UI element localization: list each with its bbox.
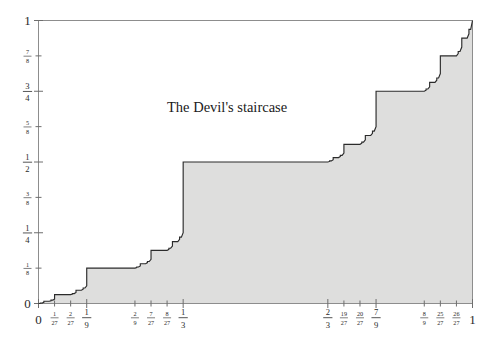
svg-text:9: 9	[423, 319, 426, 326]
y-tick-label-5: 58	[24, 119, 32, 135]
y-tick-label-3: 38	[24, 190, 32, 206]
x-tick-label-7: 13	[179, 307, 188, 329]
x-tick-label-5: 727	[147, 310, 155, 326]
svg-text:2: 2	[326, 307, 330, 317]
x-tick-label-3: 19	[82, 307, 91, 329]
y-tick-label-0: 0	[24, 296, 31, 311]
svg-text:8: 8	[26, 199, 29, 206]
page-title: The Devil's staircase	[167, 99, 287, 115]
svg-text:27: 27	[51, 319, 57, 326]
svg-text:27: 27	[68, 319, 74, 326]
svg-text:8: 8	[423, 310, 426, 317]
svg-text:1: 1	[85, 307, 89, 317]
svg-text:8: 8	[26, 57, 29, 64]
svg-text:4: 4	[25, 235, 30, 245]
svg-text:19: 19	[341, 310, 347, 317]
svg-text:27: 27	[453, 319, 459, 326]
svg-text:9: 9	[85, 320, 89, 330]
svg-text:3: 3	[181, 320, 185, 330]
svg-text:27: 27	[437, 319, 443, 326]
x-tick-label-2: 227	[67, 310, 75, 326]
svg-text:8: 8	[26, 128, 29, 135]
svg-text:2: 2	[69, 310, 72, 317]
svg-text:8: 8	[26, 269, 29, 276]
svg-text:25: 25	[437, 310, 443, 317]
svg-text:7: 7	[26, 48, 29, 55]
svg-text:7: 7	[149, 310, 152, 317]
y-tick-label-7: 78	[24, 48, 32, 64]
x-tick-label-6: 827	[163, 310, 171, 326]
svg-text:27: 27	[341, 319, 347, 326]
x-tick-label-4: 29	[131, 310, 139, 326]
y-tick-label-6: 34	[23, 81, 32, 103]
x-tick-label-8: 23	[323, 307, 332, 329]
svg-text:27: 27	[357, 319, 363, 326]
x-tick-label-10: 2027	[356, 310, 364, 326]
svg-text:27: 27	[148, 319, 154, 326]
devils-staircase-figure: 0181438125834781012722719297278271323192…	[0, 0, 499, 340]
y-tick-label-2: 14	[23, 223, 32, 245]
svg-text:3: 3	[326, 320, 330, 330]
svg-text:2: 2	[133, 310, 136, 317]
cantor-function-plot: 0181438125834781012722719297278271323192…	[0, 0, 499, 340]
svg-text:1: 1	[25, 223, 29, 233]
svg-text:8: 8	[166, 310, 169, 317]
x-tick-label-14: 2627	[452, 310, 460, 326]
svg-text:1: 1	[53, 310, 56, 317]
svg-text:27: 27	[164, 319, 170, 326]
svg-text:5: 5	[26, 119, 29, 126]
svg-text:2: 2	[25, 164, 29, 174]
svg-text:1: 1	[181, 307, 185, 317]
svg-text:20: 20	[357, 310, 363, 317]
svg-text:9: 9	[374, 320, 378, 330]
svg-text:1: 1	[26, 261, 29, 268]
y-tick-label-8: 1	[24, 13, 31, 28]
x-tick-label-9: 1927	[340, 310, 348, 326]
x-tick-label-13: 2527	[436, 310, 444, 326]
x-tick-label-15: 1	[469, 312, 476, 327]
y-tick-label-4: 12	[23, 152, 32, 174]
svg-text:9: 9	[133, 319, 136, 326]
svg-text:3: 3	[25, 81, 29, 91]
x-tick-label-1: 127	[51, 310, 59, 326]
svg-text:7: 7	[374, 307, 379, 317]
x-tick-label-11: 79	[371, 307, 380, 329]
svg-text:3: 3	[26, 190, 29, 197]
y-tick-label-1: 18	[24, 261, 32, 277]
x-tick-label-0: 0	[35, 312, 42, 327]
x-tick-label-12: 89	[420, 310, 428, 326]
svg-text:1: 1	[25, 152, 29, 162]
svg-text:26: 26	[453, 310, 459, 317]
svg-text:4: 4	[25, 93, 30, 103]
